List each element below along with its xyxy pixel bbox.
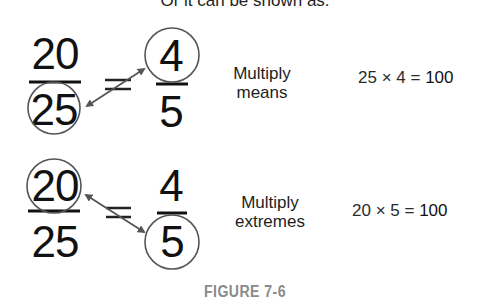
label-line-1: Multiply — [225, 193, 315, 212]
left-numerator: 20 — [25, 164, 85, 208]
product-equation: 25 × 4 = 100 — [358, 68, 454, 88]
label-line-2: extremes — [225, 212, 315, 231]
equation-lhs: 20 × 5 = — [352, 201, 419, 220]
equation-result: 100 — [419, 201, 447, 220]
left-denominator: 25 — [25, 220, 85, 264]
operation-label: Multiply extremes — [225, 193, 315, 231]
right-numerator: 4 — [141, 164, 201, 208]
figure-caption: FIGURE 7-6 — [29, 283, 460, 301]
equation-result: 100 — [425, 68, 453, 87]
right-denominator: 5 — [142, 220, 202, 264]
product-equation: 20 × 5 = 100 — [352, 201, 448, 221]
label-line-2: means — [222, 83, 302, 102]
operation-label: Multiply means — [222, 64, 302, 102]
equation-lhs: 25 × 4 = — [358, 68, 425, 87]
left-denominator: 25 — [24, 88, 84, 132]
right-numerator: 4 — [141, 34, 201, 78]
diagram-means: 20 25 4 5 Multiply means 25 × 4 = 100 — [0, 0, 490, 150]
label-line-1: Multiply — [222, 64, 302, 83]
right-denominator: 5 — [141, 90, 201, 134]
diagram-extremes: 20 25 4 5 Multiply extremes 20 × 5 = 100 — [0, 150, 490, 275]
left-numerator: 20 — [25, 32, 85, 76]
